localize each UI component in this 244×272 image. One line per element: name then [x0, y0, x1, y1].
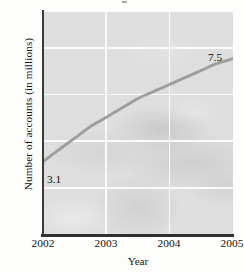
x-tick-label-2005: 2005: [210, 237, 244, 249]
x-tick-label-2002: 2002: [21, 237, 65, 249]
x-tick-label-2004: 2004: [147, 237, 191, 249]
y-axis-line: [42, 10, 45, 236]
x-tick-label-2003: 2003: [84, 237, 128, 249]
x-axis-line: [41, 234, 234, 237]
annotation-start-value: 3.1: [47, 173, 61, 185]
line-series-number-of-accounts: [43, 59, 233, 162]
annotation-end-value: 7.5: [208, 51, 222, 63]
data-line-svg: [43, 12, 233, 234]
chart-figure: Number of accounts (in millions) 8 6 4 2…: [0, 0, 244, 272]
scan-artifact-speck: [122, 1, 127, 3]
x-axis-label: Year: [43, 255, 233, 267]
plot-area: [43, 12, 233, 234]
y-axis-label: Number of accounts (in millions): [22, 14, 34, 214]
